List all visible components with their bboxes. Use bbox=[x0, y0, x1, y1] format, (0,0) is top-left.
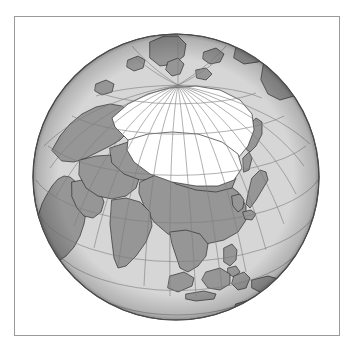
globe-map bbox=[0, 0, 354, 355]
limb-shading bbox=[33, 34, 319, 320]
screenshot-root bbox=[0, 0, 354, 355]
